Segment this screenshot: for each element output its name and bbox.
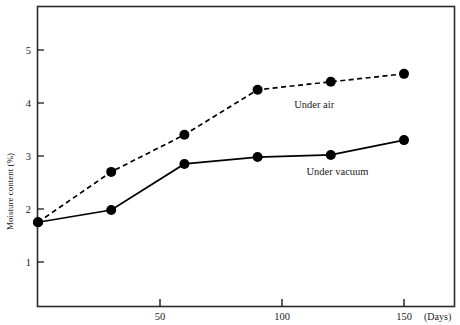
data-point [399, 135, 409, 145]
data-point [326, 77, 336, 87]
data-point [253, 152, 263, 162]
data-point [106, 167, 116, 177]
data-point [179, 130, 189, 140]
chart-background [0, 0, 460, 325]
data-point [179, 159, 189, 169]
y-tick-label-3: 3 [26, 151, 31, 162]
moisture-content-chart: 5 4 3 2 1 50 100 150 (Days) Moisture con… [0, 0, 460, 325]
x-axis-label: (Days) [424, 311, 451, 323]
y-axis-label: Moisture content (%) [5, 153, 15, 230]
data-point [106, 205, 116, 215]
chart-canvas: 5 4 3 2 1 50 100 150 (Days) Moisture con… [0, 0, 460, 325]
annotation-under-vacuum: Under vacuum [306, 166, 368, 177]
data-point [33, 217, 43, 227]
y-tick-label-5: 5 [26, 45, 31, 56]
data-point [253, 85, 263, 95]
x-tick-label-100: 100 [274, 311, 290, 322]
y-tick-label-4: 4 [26, 98, 32, 109]
x-tick-label-150: 150 [396, 311, 412, 322]
x-tick-label-50: 50 [155, 311, 166, 322]
y-tick-label-2: 2 [26, 204, 31, 215]
data-point [326, 150, 336, 160]
y-tick-label-1: 1 [26, 257, 31, 268]
data-point [399, 69, 409, 79]
annotation-under-air: Under air [294, 99, 334, 110]
